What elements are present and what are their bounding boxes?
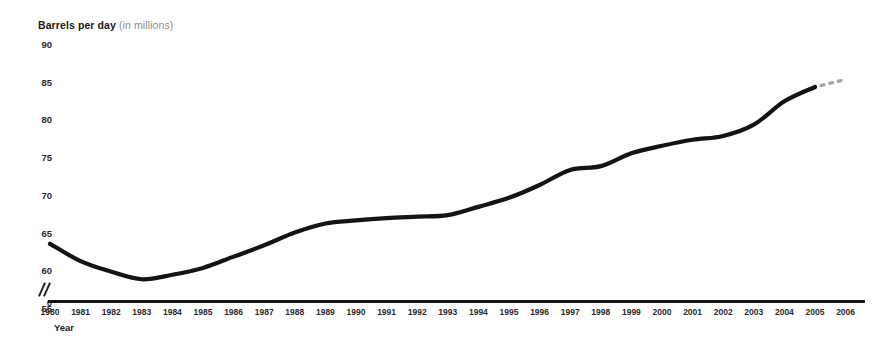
projection-dash-1 <box>821 85 824 86</box>
projection-dash-2 <box>830 83 833 84</box>
projection-dash-3 <box>838 81 841 82</box>
series-line-projection <box>821 81 841 86</box>
series-line-world-oil-consumption <box>50 87 815 279</box>
plot-area <box>0 0 896 356</box>
line-chart: Barrels per day (in millions) 9085807570… <box>0 0 896 356</box>
